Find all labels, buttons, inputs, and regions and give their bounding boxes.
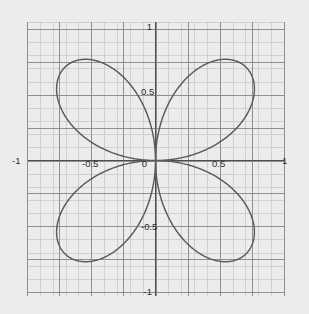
polar-rose-figure: -1 -0.5 0 0.5 1 1 0.5 -0.5 -1: [0, 0, 309, 314]
x-tick-label-neg-one: -1: [12, 155, 20, 166]
y-tick-label-neg-one: -1: [144, 286, 152, 297]
x-tick-label-pos-half: 0.5: [212, 158, 225, 169]
plot-canvas: -1 -0.5 0 0.5 1 1 0.5 -0.5 -1: [0, 0, 309, 314]
y-tick-label-pos-one: 1: [147, 21, 152, 32]
x-tick-label-pos-one: 1: [282, 155, 287, 166]
x-tick-label-neg-half: -0.5: [82, 158, 98, 169]
y-tick-label-neg-half: -0.5: [141, 221, 157, 232]
y-tick-label-pos-half: 0.5: [141, 86, 154, 97]
x-tick-label-origin: 0: [142, 158, 147, 169]
